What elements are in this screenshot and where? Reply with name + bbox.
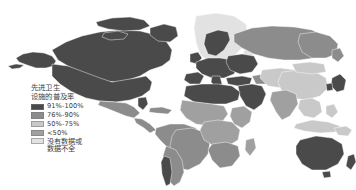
- region-korea: [326, 83, 333, 91]
- legend-label-no-data: 没有数据或 数据不全: [47, 138, 83, 154]
- legend-swatch-under-50: [31, 130, 44, 136]
- legend-swatch-91-100: [31, 104, 44, 110]
- world-map-figure: .c-dark { fill: #4a4a4a; } .c-mid { fill…: [0, 0, 356, 190]
- region-iberia: [184, 72, 204, 84]
- legend-swatch-no-data: [31, 138, 44, 144]
- legend-item-no-data: 没有数据或 数据不全: [31, 138, 97, 154]
- legend-swatch-76-90: [31, 112, 44, 118]
- legend-label-76-90: 76%-90%: [47, 112, 79, 119]
- legend-label-91-100: 91%-100%: [47, 103, 84, 110]
- legend-item-76-90: 76%-90%: [31, 111, 97, 119]
- legend-label-50-75: 50%-75%: [47, 121, 79, 128]
- legend-label-under-50: <50%: [47, 130, 68, 137]
- region-north-africa: [184, 84, 240, 104]
- legend-swatch-50-75: [31, 121, 44, 127]
- legend-title-line-1: 先进卫生: [31, 84, 97, 92]
- legend-label-no-data-line-2: 数据不全: [47, 145, 83, 153]
- map-legend: 先进卫生 设施的普及率 91%-100% 76%-90% 50%-75% <50…: [31, 84, 97, 154]
- region-mongolia: [292, 62, 326, 74]
- legend-item-50-75: 50%-75%: [31, 120, 97, 128]
- legend-item-under-50: <50%: [31, 129, 97, 137]
- legend-item-91-100: 91%-100%: [31, 103, 97, 111]
- legend-title-line-2: 设施的普及率: [31, 93, 97, 101]
